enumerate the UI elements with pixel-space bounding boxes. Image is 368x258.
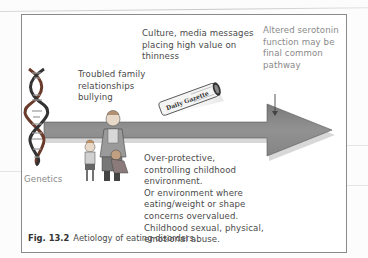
- figure-box: Daily Gazette Troubled family relationsh…: [21, 14, 347, 253]
- label-culture-media: Culture, media messages placing high val…: [142, 28, 254, 63]
- label-serotonin: Altered serotonin function may be final …: [263, 25, 339, 71]
- newspaper-icon: Daily Gazette: [152, 79, 232, 115]
- dna-helix-icon: [24, 67, 50, 167]
- figure-caption-text: Aetiology of eating disorders.: [73, 233, 196, 243]
- figure-number: Fig. 13.2: [28, 233, 69, 243]
- family-figures-icon: [78, 107, 138, 187]
- label-environment: Over-protective, controlling childhood e…: [144, 153, 264, 246]
- figure-caption: Fig. 13.2Aetiology of eating disorders.: [28, 233, 197, 243]
- label-family-relationships: Troubled family relationships bullying: [78, 69, 145, 104]
- label-genetics: Genetics: [24, 174, 62, 186]
